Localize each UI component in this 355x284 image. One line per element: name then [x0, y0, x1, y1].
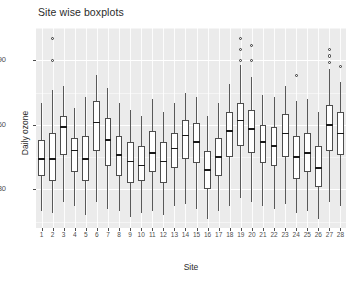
gridline-horizontal [36, 60, 346, 61]
boxplot-box[interactable] [127, 142, 134, 183]
gridline-horizontal [36, 125, 346, 126]
boxplot-box[interactable] [60, 116, 67, 155]
boxplot-outlier [239, 48, 242, 51]
boxplot-median [82, 158, 89, 160]
boxplot-median [93, 122, 100, 124]
boxplot-median [49, 158, 56, 160]
boxplot-median [293, 156, 300, 158]
boxplot-box[interactable] [260, 125, 267, 164]
gridline-horizontal-minor [36, 28, 346, 29]
boxplot-box[interactable] [71, 138, 78, 172]
y-axis-label: Daily ozone [20, 88, 30, 178]
boxplot-median [282, 133, 289, 135]
boxplot-median [160, 161, 167, 163]
boxplot-median [337, 133, 344, 135]
boxplot-median [260, 141, 267, 143]
boxplot-box[interactable] [282, 114, 289, 157]
boxplot-outlier [51, 37, 54, 40]
boxplot-outlier [328, 54, 331, 57]
x-axis-label: Site [36, 262, 346, 272]
boxplot-median [60, 126, 67, 128]
boxplot-box[interactable] [49, 133, 56, 180]
boxplot-box[interactable] [248, 110, 255, 153]
boxplot-median [326, 124, 333, 126]
boxplot-box[interactable] [226, 112, 233, 157]
boxplot-box[interactable] [237, 103, 244, 146]
boxplot-median [71, 150, 78, 152]
gridline-horizontal-minor [36, 93, 346, 94]
y-tick-mark [33, 189, 36, 190]
boxplot-median [149, 152, 156, 154]
boxplot-median [226, 130, 233, 132]
plot-panel [36, 28, 346, 228]
boxplot-median [116, 154, 123, 156]
x-tick-label: 28 [330, 231, 350, 238]
y-tick-label: 30 [0, 184, 6, 193]
boxplot-outlier [239, 37, 242, 40]
y-tick-mark [33, 125, 36, 126]
boxplot-outlier [51, 59, 54, 62]
boxplot-median [193, 141, 200, 143]
boxplot-box[interactable] [93, 101, 100, 150]
chart-title: Site wise boxplots [38, 6, 124, 18]
boxplot-box[interactable] [160, 142, 167, 183]
y-tick-label: 90 [0, 55, 6, 64]
boxplot-median [248, 128, 255, 130]
boxplot-figure: Site wise boxplots Daily ozone 306090123… [0, 0, 355, 284]
boxplot-outlier [250, 59, 253, 62]
boxplot-median [204, 169, 211, 171]
boxplot-outlier [295, 74, 298, 77]
boxplot-box[interactable] [193, 123, 200, 164]
boxplot-outlier [239, 59, 242, 62]
boxplot-median [237, 120, 244, 122]
boxplot-median [271, 145, 278, 147]
y-tick-mark [33, 60, 36, 61]
boxplot-median [105, 139, 112, 141]
boxplot-median [215, 156, 222, 158]
boxplot-median [138, 165, 145, 167]
boxplot-median [304, 152, 311, 154]
boxplot-box[interactable] [116, 136, 123, 177]
boxplot-outlier [328, 48, 331, 51]
boxplot-outlier [339, 65, 342, 68]
boxplot-median [171, 148, 178, 150]
boxplot-outlier [250, 44, 253, 47]
boxplot-median [38, 158, 45, 160]
boxplot-box[interactable] [138, 146, 145, 180]
gridline-horizontal-minor [36, 222, 346, 223]
boxplot-outlier [328, 61, 331, 64]
boxplot-box[interactable] [182, 120, 189, 159]
boxplot-median [182, 135, 189, 137]
boxplot-median [127, 161, 134, 163]
gridline-horizontal [36, 189, 346, 190]
boxplot-box[interactable] [171, 133, 178, 167]
boxplot-box[interactable] [326, 105, 333, 150]
x-tick-mark [340, 228, 341, 231]
boxplot-box[interactable] [105, 118, 112, 165]
y-tick-label: 60 [0, 120, 6, 129]
boxplot-median [315, 167, 322, 169]
